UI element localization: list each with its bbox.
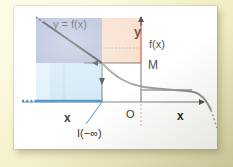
origin-label: O [126,109,135,120]
function-label: y = f(x) [53,19,87,30]
region-lower-left-fade [36,63,50,102]
interval-label: I(−∞) [77,128,102,139]
value-fx-label: f(x) [149,39,165,50]
function-curve-descent [194,92,211,110]
math-diagram-canvas [14,6,217,149]
asymptote-m-label: M [148,59,158,71]
figure-card: y = f(x) y f(x) M O x x I(−∞) [14,6,217,149]
point-x-label: x [64,112,71,124]
figure-frame: y = f(x) y f(x) M O x x I(−∞) [0,0,233,167]
function-curve-dotted-tail [211,110,217,128]
interval-leader-line [86,102,102,124]
y-axis-label: y [134,25,141,38]
x-axis-label: x [177,110,184,122]
